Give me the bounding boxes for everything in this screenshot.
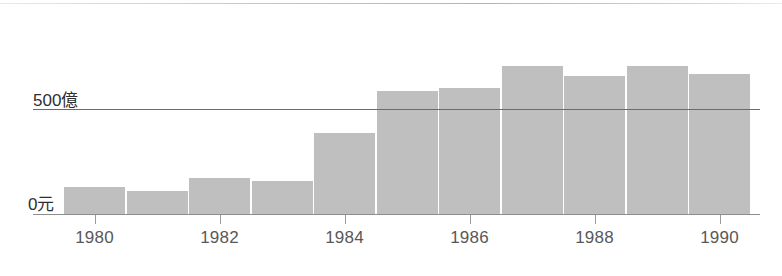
x-axis-line	[33, 214, 760, 215]
x-tick-1990	[720, 215, 721, 224]
x-tick-1988	[595, 215, 596, 224]
bar-1989	[627, 66, 688, 214]
screenshot-root: 198019821984198619881990 500億 0元	[0, 0, 782, 276]
x-tick-label-1982: 1982	[180, 228, 260, 248]
x-tick-1982	[220, 215, 221, 224]
plot-area: 198019821984198619881990 500億 0元	[0, 0, 782, 276]
x-tick-label-1984: 1984	[305, 228, 385, 248]
bar-1981	[127, 191, 188, 214]
bar-1987	[502, 66, 563, 214]
bar-1988	[564, 76, 625, 214]
bar-1984	[314, 133, 375, 214]
y-axis-label-0: 0元	[28, 190, 54, 215]
bar-1986	[439, 88, 500, 214]
bar-1982	[189, 178, 250, 214]
gridline-500	[33, 109, 760, 110]
x-tick-1986	[470, 215, 471, 224]
bar-1980	[64, 187, 125, 214]
bar-chart: 198019821984198619881990 500億 0元	[0, 0, 782, 276]
bar-1983	[252, 181, 313, 214]
x-tick-label-1990: 1990	[680, 228, 760, 248]
x-tick-1980	[95, 215, 96, 224]
x-tick-label-1986: 1986	[430, 228, 510, 248]
y-axis-label-500: 500億	[33, 86, 78, 111]
x-tick-label-1988: 1988	[555, 228, 635, 248]
bar-1990	[689, 74, 750, 214]
x-tick-label-1980: 1980	[55, 228, 135, 248]
x-tick-1984	[345, 215, 346, 224]
